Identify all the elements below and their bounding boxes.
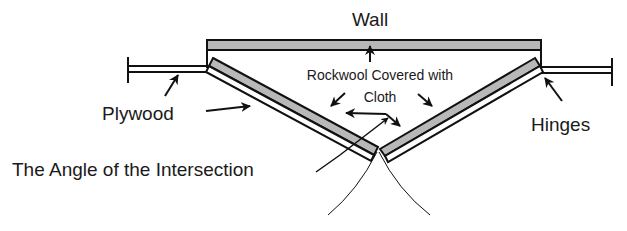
plywood-label: Plywood <box>102 103 174 124</box>
wall-label: Wall <box>352 9 388 30</box>
hinges-arrow <box>545 78 562 101</box>
rockwool-left-arrow <box>331 93 345 106</box>
rockwool-label-line2: Cloth <box>364 89 397 105</box>
rockwool-right-arrow <box>418 94 432 106</box>
plywood-right-arrow <box>206 106 250 111</box>
right-plywood-extension <box>541 58 612 86</box>
angle-of-intersection-label: The Angle of the Intersection <box>12 159 254 180</box>
plywood-up-arrow <box>165 75 178 96</box>
wall-panel <box>207 40 541 50</box>
left-curve <box>328 152 377 215</box>
rockwool-label-line1: Rockwool Covered with <box>307 67 453 83</box>
cloth-down-arrow <box>386 114 400 126</box>
corner-absorber-diagram: Wall Rockwool Covered with Cloth Plywood… <box>0 0 627 231</box>
cloth-left-arrow <box>346 113 386 114</box>
hinges-label: Hinges <box>531 114 590 135</box>
left-plywood-extension <box>128 57 207 83</box>
